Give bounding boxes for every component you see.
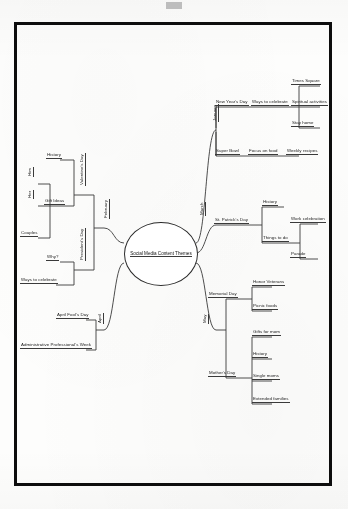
node-super-bowl[interactable]: Super Bowl (215, 149, 240, 155)
node-administrative-professionals-week[interactable]: Administrative Professional's Week (20, 343, 92, 349)
node-why[interactable]: Why? (46, 255, 59, 261)
node-honor-veterans[interactable]: Honor Veterans (252, 280, 285, 286)
node-st-patricks-day[interactable]: St. Patrick's Day (214, 218, 249, 224)
node-him[interactable]: Him (28, 167, 34, 177)
node-memorial-day[interactable]: Memorial Day (208, 292, 238, 298)
node-her[interactable]: Her (28, 190, 34, 199)
node-presidents-day[interactable]: President's Day (80, 228, 86, 261)
node-valentines-history[interactable]: History (46, 153, 62, 159)
scan-artifact-mark (166, 2, 182, 9)
node-february[interactable]: February (104, 199, 110, 219)
node-may[interactable]: May (203, 314, 209, 324)
node-march[interactable]: March (200, 202, 206, 216)
node-things-to-do[interactable]: Things to do (262, 236, 289, 242)
node-extended-families[interactable]: Extended families (252, 397, 290, 403)
node-gifts-for-mom[interactable]: Gifts for mom (252, 330, 281, 336)
center-node-label: Social Media Content Themes (130, 251, 191, 258)
node-weekly-recipes[interactable]: Weekly recipes (286, 149, 318, 155)
node-times-square[interactable]: Times Square (291, 79, 321, 85)
node-ways-to-celebrate-ny[interactable]: Ways to celebrate (251, 100, 289, 106)
center-node[interactable]: Social Media Content Themes (124, 222, 198, 286)
node-valentines-day[interactable]: Valentine's Day (80, 153, 86, 186)
node-focus-on-food[interactable]: Focus on food (248, 149, 278, 155)
node-couples[interactable]: Couples (20, 231, 38, 237)
node-mothers-day-history[interactable]: History (252, 352, 268, 358)
node-parade[interactable]: Parade (290, 252, 306, 258)
node-work-celebration[interactable]: Work celebration (290, 217, 326, 223)
node-new-years-day[interactable]: New Year's Day (215, 100, 249, 106)
node-january[interactable]: January (213, 104, 219, 122)
node-picnic-foods[interactable]: Picnic foods (252, 304, 278, 310)
node-spiritual-activities[interactable]: Spiritual activities (291, 100, 328, 106)
node-ways-to-celebrate-presidents[interactable]: Ways to celebrate (20, 278, 58, 284)
node-april[interactable]: April (98, 313, 104, 324)
mindmap-page: Social Media Content Themes January New … (0, 0, 348, 509)
node-april-fools-day[interactable]: April Fool's Day (56, 313, 89, 319)
node-gift-ideas[interactable]: Gift Ideas (44, 199, 65, 205)
node-mothers-day[interactable]: Mother's Day (208, 371, 236, 377)
node-single-moms[interactable]: Single moms (252, 374, 280, 380)
node-stay-home[interactable]: Stay home (291, 121, 314, 127)
node-st-patricks-history[interactable]: History (262, 200, 278, 206)
